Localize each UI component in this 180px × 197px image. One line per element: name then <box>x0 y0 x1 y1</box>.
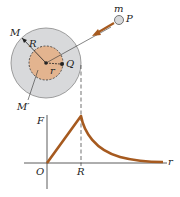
label-R-axis: R <box>77 167 85 177</box>
force-arrow-shaft <box>97 23 114 33</box>
force-curve <box>47 116 163 163</box>
label-O: O <box>36 167 44 177</box>
label-m: m <box>114 4 123 14</box>
force-arrowhead <box>92 29 101 36</box>
label-F-axis: F <box>37 116 44 126</box>
particle-P <box>115 16 124 25</box>
gravity-sphere-diagram <box>0 0 180 197</box>
label-r-axis: r <box>168 157 173 167</box>
point-Q <box>60 62 64 66</box>
label-Q: Q <box>66 59 74 69</box>
label-P: P <box>126 14 133 24</box>
label-r-inner: r <box>50 66 55 76</box>
label-M: M <box>10 28 20 38</box>
label-R-sphere: R <box>29 39 37 49</box>
label-M-prime: M′ <box>17 102 30 112</box>
